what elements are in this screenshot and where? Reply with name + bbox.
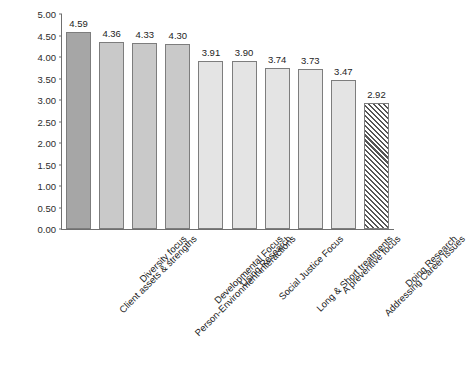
x-category-label: Using Research [238, 233, 294, 289]
bar-item: 3.74 [265, 14, 290, 229]
bar-item: 2.92 [364, 14, 389, 229]
bar-value-label: 3.74 [268, 54, 287, 65]
bar [132, 43, 157, 229]
bar [364, 103, 389, 229]
bar-item: 3.47 [331, 14, 356, 229]
bar-value-label: 4.33 [136, 29, 155, 40]
bar [331, 80, 356, 229]
bar-item: 4.59 [66, 14, 91, 229]
bar-value-label: 3.73 [301, 55, 320, 66]
bar-item: 4.30 [165, 14, 190, 229]
bar-value-label: 2.92 [367, 89, 386, 100]
x-axis-line [61, 229, 394, 230]
bar-item: 3.90 [232, 14, 257, 229]
bar-item: 3.91 [198, 14, 223, 229]
x-category-label: A preventive focus [340, 233, 403, 296]
bar-item: 4.33 [132, 14, 157, 229]
bar-item: 3.73 [298, 14, 323, 229]
bar [165, 44, 190, 229]
bar [232, 61, 257, 229]
bar-value-label: 3.91 [202, 47, 221, 58]
bar-value-label: 3.47 [334, 66, 353, 77]
plot-area: 0.000.501.001.502.002.503.003.504.004.50… [62, 14, 393, 229]
x-category-label: Doing Research [403, 233, 459, 289]
bar-value-label: 4.59 [69, 18, 88, 29]
bar [66, 32, 91, 229]
x-axis-category-labels: Client assets & strengthsDiversity focus… [62, 233, 393, 373]
bar-series: 4.594.364.334.303.913.903.743.733.472.92 [62, 14, 393, 229]
bar-value-label: 4.36 [102, 28, 121, 39]
bar-value-label: 3.90 [235, 47, 254, 58]
x-category-label: Client assets & strengths [116, 233, 198, 315]
bar [298, 69, 323, 229]
bar [99, 42, 124, 229]
bar [198, 61, 223, 229]
bar [265, 68, 290, 229]
bar-item: 4.36 [99, 14, 124, 229]
bar-value-label: 4.30 [169, 30, 188, 41]
